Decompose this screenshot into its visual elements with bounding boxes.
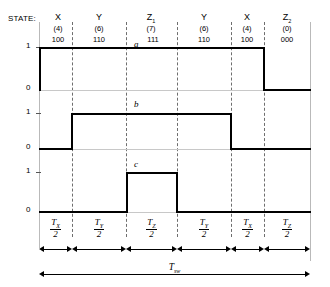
signal-b-high-label: 1	[26, 108, 30, 116]
interval-label-3: TY2	[177, 218, 231, 241]
interval-arrow-right-5	[305, 246, 310, 252]
total-period-dimline	[44, 274, 306, 275]
state-name-4: X	[234, 13, 260, 24]
total-period-arrow-left	[39, 271, 44, 277]
signal-c-high-tick	[36, 172, 41, 173]
interval-dimline-3	[182, 249, 226, 250]
signal-c-low-label: 0	[26, 206, 30, 214]
interval-dimline-4	[236, 249, 259, 250]
state-code-2: 111	[140, 36, 166, 44]
state-row-label: STATE:	[8, 15, 36, 23]
signal-a-edge-fall	[263, 47, 265, 91]
signal-a-high-label: 1	[26, 42, 30, 50]
interval-dimline-2	[131, 249, 172, 250]
interval-arrow-left-3	[177, 246, 182, 252]
signal-b-name: b	[134, 100, 139, 109]
interval-label-4: TX2	[231, 218, 264, 241]
signal-b-edge-rise	[71, 113, 73, 150]
state-name-2: Z1	[138, 13, 164, 24]
signal-c-edge-rise	[126, 172, 128, 213]
state-number-1: (6)	[86, 25, 112, 33]
state-code-4: 100	[234, 36, 260, 44]
interval-arrow-left-5	[264, 246, 269, 252]
signal-a-low-label: 0	[26, 84, 30, 92]
state-number-3: (6)	[191, 25, 217, 33]
interval-label-1: TY2	[72, 218, 126, 241]
interval-arrow-left-2	[126, 246, 131, 252]
signal-a-edge-rise	[39, 47, 41, 91]
state-number-2: (7)	[138, 25, 164, 33]
signal-c-high-segment	[126, 172, 178, 174]
interval-arrow-left-4	[231, 246, 236, 252]
signal-c-name: c	[134, 160, 138, 169]
signal-b-high-segment	[71, 113, 231, 115]
interval-dimline-1	[77, 249, 121, 250]
state-code-0: 100	[45, 36, 71, 44]
signal-b-high-tick	[36, 113, 41, 114]
state-name-5: Z2	[274, 13, 300, 24]
interval-label-0: TX2	[39, 218, 72, 241]
state-number-4: (4)	[234, 25, 260, 33]
interval-dimline-5	[269, 249, 305, 250]
interval-label-5: TZ2	[264, 218, 310, 241]
signal-b-edge-fall	[230, 113, 232, 150]
signal-a-low-segment	[263, 89, 311, 91]
state-number-0: (4)	[45, 25, 71, 33]
total-period-label: Tsw	[39, 256, 310, 274]
signal-c-low-segment-start	[39, 211, 127, 213]
state-name-0: X	[45, 13, 71, 24]
interval-dimline-0	[44, 249, 67, 250]
interval-arrow-left-1	[72, 246, 77, 252]
state-code-1: 110	[86, 36, 112, 44]
state-code-5: 000	[274, 36, 300, 44]
signal-c-edge-fall	[176, 172, 178, 213]
state-name-1: Y	[86, 13, 112, 24]
signal-c-high-label: 1	[26, 167, 30, 175]
signal-b-low-label: 0	[26, 143, 30, 151]
signal-a-high-segment	[39, 47, 265, 49]
state-code-3: 110	[191, 36, 217, 44]
signal-b-low-segment-end	[230, 148, 311, 150]
timing-diagram: STATE: X (4) 100 Y (6) 110 Z1 (7) 111 Y …	[0, 0, 330, 287]
total-period-arrow-right	[305, 271, 310, 277]
state-number-5: (0)	[274, 25, 300, 33]
state-name-3: Y	[191, 13, 217, 24]
signal-c-low-segment-end	[176, 211, 311, 213]
interval-label-2: TZ2	[126, 218, 177, 241]
signal-b-low-segment-start	[39, 148, 73, 150]
axis-line-right	[310, 22, 311, 261]
interval-tick-0	[39, 216, 40, 250]
